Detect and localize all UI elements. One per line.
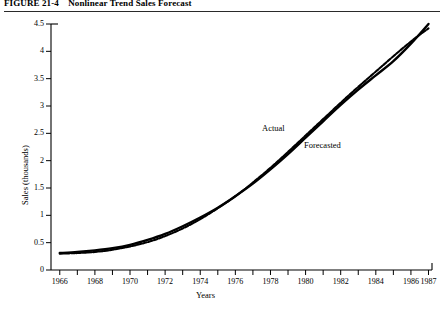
x-tick-label: 1968 <box>78 277 112 286</box>
x-tick-label: 1987 <box>411 277 444 286</box>
series-line-forecasted <box>60 28 429 253</box>
y-tick-marks <box>46 24 51 270</box>
y-tick-label: 0 <box>10 265 44 274</box>
forecasted-annotation: Forecasted <box>304 140 341 150</box>
x-tick-label: 1970 <box>113 277 147 286</box>
chart-svg <box>0 0 444 316</box>
y-tick-label: 4.5 <box>10 19 44 28</box>
x-tick-label: 1984 <box>359 277 393 286</box>
x-tick-label: 1978 <box>253 277 287 286</box>
x-axis-title: Years <box>196 290 215 300</box>
series-line-actual <box>60 24 429 253</box>
y-tick-label: 0.5 <box>10 238 44 247</box>
y-tick-label: 3.5 <box>10 74 44 83</box>
x-tick-label: 1966 <box>43 277 77 286</box>
chart-plot-area: 00.511.522.533.544.5 1966196819701972197… <box>0 0 444 316</box>
x-tick-label: 1972 <box>148 277 182 286</box>
x-tick-label: 1976 <box>218 277 252 286</box>
actual-annotation: Actual <box>262 123 285 133</box>
x-tick-label: 1974 <box>183 277 217 286</box>
y-tick-label: 4 <box>10 46 44 55</box>
series-layer <box>60 24 429 254</box>
x-tick-label: 1980 <box>289 277 323 286</box>
x-tick-label: 1982 <box>324 277 358 286</box>
figure-page: FIGURE 21-4 Nonlinear Trend Sales Foreca… <box>0 0 444 316</box>
y-axis-title: Sales (thousands) <box>20 145 30 205</box>
y-tick-label: 3 <box>10 101 44 110</box>
y-tick-label: 1 <box>10 210 44 219</box>
y-tick-label: 2.5 <box>10 128 44 137</box>
x-tick-marks <box>60 270 429 275</box>
axes-group <box>51 24 432 270</box>
